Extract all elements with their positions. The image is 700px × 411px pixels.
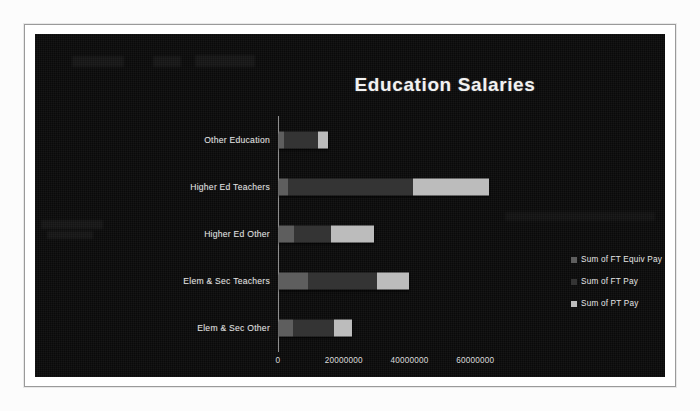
category-axis-label: Higher Ed Teachers [190,182,270,192]
bar-segment[interactable] [288,178,413,195]
category-row: Higher Ed Other [278,210,508,257]
chart-canvas[interactable]: Education Salaries Other EducationHigher… [35,34,665,377]
bar-segment[interactable] [293,320,334,337]
legend-item[interactable]: Sum of FT Pay [571,277,663,286]
category-axis-label: Elem & Sec Other [197,323,270,333]
bar-segment[interactable] [377,273,409,290]
legend-item-label: Sum of FT Pay [581,277,638,286]
page: Education Salaries Other EducationHigher… [0,0,700,411]
value-axis-tick-labels: 0200000004000000060000000 [278,356,538,372]
category-axis-label: Elem & Sec Teachers [183,276,270,286]
scan-artifact-smudge [195,55,255,67]
legend-square-swatch-icon [571,279,577,285]
stacked-bar[interactable] [279,225,374,242]
bar-segment[interactable] [413,178,489,195]
category-row: Elem & Sec Teachers [278,258,508,305]
bar-segment[interactable] [294,225,330,242]
category-axis-label: Higher Ed Other [204,229,270,239]
legend-item[interactable]: Sum of FT Equiv Pay [571,255,663,264]
stacked-bar[interactable] [279,320,352,337]
value-axis-tick-label: 60000000 [456,356,494,365]
legend-item-label: Sum of PT Pay [581,299,639,308]
legend-item-label: Sum of FT Equiv Pay [581,255,662,264]
chart-legend[interactable]: Sum of FT Equiv PaySum of FT PaySum of P… [571,255,663,321]
category-row: Other Education [278,116,508,163]
category-axis-label: Other Education [204,135,270,145]
stacked-bar[interactable] [279,131,328,148]
bar-segment[interactable] [331,225,374,242]
value-axis-tick-label: 0 [276,356,281,365]
bar-segment[interactable] [318,131,328,148]
value-axis-tick-label: 20000000 [325,356,363,365]
scan-artifact-smudge [47,231,93,239]
value-axis-tick-label: 40000000 [390,356,428,365]
bar-segment[interactable] [334,320,352,337]
bar-segment[interactable] [279,320,293,337]
stacked-bar[interactable] [279,178,489,195]
bar-segment[interactable] [279,178,288,195]
stacked-bar[interactable] [279,273,409,290]
bar-segment[interactable] [308,273,377,290]
category-row: Elem & Sec Other [278,305,508,352]
legend-item[interactable]: Sum of PT Pay [571,299,663,308]
chart-title: Education Salaries [235,74,655,96]
legend-square-swatch-icon [571,257,577,263]
scan-artifact-smudge [153,56,181,67]
bar-segment[interactable] [284,131,319,148]
bar-segment[interactable] [279,273,308,290]
scan-artifact-smudge [72,56,124,67]
scan-artifact-smudge [41,220,103,229]
scan-artifact-smudge [505,212,655,221]
legend-square-swatch-icon [571,301,577,307]
plot-area[interactable]: Other EducationHigher Ed TeachersHigher … [278,116,508,352]
category-row: Higher Ed Teachers [278,163,508,210]
bar-segment[interactable] [279,225,294,242]
